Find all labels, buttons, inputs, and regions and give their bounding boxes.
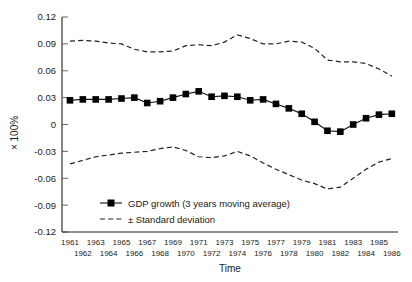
data-point-marker	[221, 93, 228, 100]
y-axis-ticks	[62, 17, 68, 232]
data-point-marker	[144, 100, 151, 107]
x-axis-tick-label-top: 1975	[241, 238, 259, 247]
data-point-marker	[311, 119, 318, 126]
x-axis-tick-label-top: 1965	[113, 238, 131, 247]
data-point-marker	[170, 94, 177, 101]
x-axis-tick-label-top: 1963	[87, 238, 105, 247]
chart-container: 0.120.090.060.030-0.03-0.06-0.09-0.12 19…	[0, 0, 412, 282]
x-axis-tick-label-bottom: 1964	[100, 249, 118, 258]
y-axis-tick-label: -0.09	[34, 200, 56, 211]
x-axis-tick-label-top: 1981	[319, 238, 337, 247]
y-axis-tick-labels: 0.120.090.060.030-0.03-0.06-0.09-0.12	[34, 11, 56, 237]
y-axis-tick-label: 0.09	[38, 38, 57, 49]
x-axis-tick-label-bottom: 1966	[125, 249, 143, 258]
x-axis-tick-label-bottom: 1982	[331, 249, 349, 258]
x-axis-tick-label-bottom: 1972	[203, 249, 221, 258]
x-axis-tick-label-bottom: 1974	[228, 249, 246, 258]
y-axis-group: 0.120.090.060.030-0.03-0.06-0.09-0.12	[34, 11, 68, 237]
data-point-marker	[67, 97, 74, 104]
x-axis-group: 1961196319651967196919711973197519771979…	[61, 232, 401, 258]
data-point-marker	[157, 98, 164, 105]
data-point-marker	[376, 111, 383, 118]
x-axis-tick-label-top: 1979	[293, 238, 311, 247]
data-point-marker	[234, 93, 241, 100]
x-axis-tick-label-bottom: 1976	[254, 249, 272, 258]
y-axis-tick-label: 0.12	[38, 11, 57, 22]
data-point-marker	[350, 121, 357, 128]
data-point-marker	[324, 127, 331, 134]
data-point-marker	[389, 110, 396, 117]
x-axis-title: Time	[219, 263, 241, 274]
data-point-marker	[195, 88, 202, 95]
series-gdp-growth-markers	[67, 88, 395, 135]
data-point-marker	[247, 97, 254, 104]
data-point-marker	[208, 93, 215, 100]
x-axis-tick-labels-top: 1961196319651967196919711973197519771979…	[61, 238, 388, 247]
y-axis-tick-label: -0.06	[34, 173, 56, 184]
data-point-marker	[363, 115, 370, 122]
x-axis-tick-label-top: 1973	[216, 238, 234, 247]
plot-area	[67, 35, 395, 189]
x-axis-tick-label-top: 1971	[190, 238, 208, 247]
x-axis-tick-labels-bottom: 1962196419661968197019721974197619781980…	[74, 249, 401, 258]
data-point-marker	[337, 128, 344, 135]
data-point-marker	[286, 105, 293, 112]
x-axis-tick-label-bottom: 1978	[280, 249, 298, 258]
gdp-growth-chart: 0.120.090.060.030-0.03-0.06-0.09-0.12 19…	[0, 0, 412, 282]
x-axis-tick-label-bottom: 1970	[177, 249, 195, 258]
legend-item-standard-deviation-label: ± Standard deviation	[128, 214, 215, 225]
data-point-marker	[92, 96, 99, 103]
x-axis-tick-label-top: 1985	[370, 238, 388, 247]
x-axis-tick-label-bottom: 1986	[383, 249, 401, 258]
data-point-marker	[105, 96, 112, 103]
x-axis-tick-label-top: 1961	[61, 238, 79, 247]
x-axis-tick-label-bottom: 1968	[151, 249, 169, 258]
x-axis-tick-label-top: 1977	[267, 238, 285, 247]
x-axis-tick-label-top: 1983	[344, 238, 362, 247]
x-axis-tick-label-bottom: 1980	[306, 249, 324, 258]
y-axis-tick-label: -0.12	[34, 226, 56, 237]
data-point-marker	[260, 96, 267, 103]
y-axis-tick-label: -0.03	[34, 146, 56, 157]
data-point-marker	[183, 91, 190, 98]
x-axis-tick-label-top: 1969	[164, 238, 182, 247]
series-lower-standard-deviation	[70, 147, 392, 189]
x-axis-tick-label-bottom: 1962	[74, 249, 92, 258]
data-point-marker	[298, 110, 305, 117]
data-point-marker	[273, 101, 280, 108]
legend-gdp-marker-swatch	[108, 200, 115, 207]
data-point-marker	[131, 94, 138, 101]
y-axis-title: × 100%	[9, 116, 20, 150]
data-point-marker	[118, 95, 125, 102]
legend-item-gdp-growth-label: GDP growth (3 years moving average)	[128, 198, 290, 209]
y-axis-tick-label: 0	[51, 119, 56, 130]
x-axis-tick-label-top: 1967	[138, 238, 156, 247]
y-axis-tick-label: 0.06	[38, 65, 57, 76]
y-axis-tick-label: 0.03	[38, 92, 57, 103]
legend: GDP growth (3 years moving average) ± St…	[100, 198, 290, 225]
data-point-marker	[80, 96, 87, 103]
series-upper-standard-deviation	[70, 35, 392, 76]
x-axis-tick-label-bottom: 1984	[357, 249, 375, 258]
